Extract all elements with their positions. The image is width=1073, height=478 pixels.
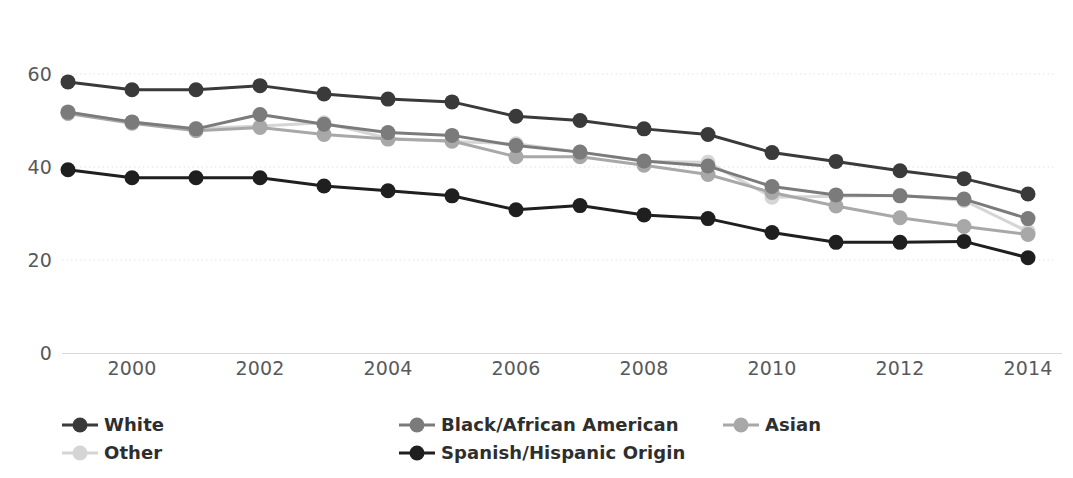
data-point: [637, 207, 652, 222]
data-point: [1021, 211, 1036, 226]
data-point: [509, 138, 524, 153]
data-point: [957, 234, 972, 249]
legend-item-black-african-american[interactable]: Black/African American: [399, 414, 679, 435]
legend-item-spanish-hispanic-origin[interactable]: Spanish/Hispanic Origin: [399, 442, 686, 463]
series-spanish-hispanic-origin: [61, 162, 1036, 265]
data-point: [765, 145, 780, 160]
data-point: [1021, 250, 1036, 265]
data-point: [61, 74, 76, 89]
data-point: [445, 94, 460, 109]
data-point: [381, 183, 396, 198]
data-point: [573, 145, 588, 160]
y-axis: 020406080: [0, 0, 52, 353]
legend-dot: [73, 445, 88, 460]
data-point: [637, 121, 652, 136]
x-tick-label: 2014: [1003, 357, 1052, 379]
data-point: [317, 117, 332, 132]
x-tick-label: 2008: [619, 357, 668, 379]
x-tick-label: 2000: [107, 357, 156, 379]
data-point: [893, 163, 908, 178]
series-white: [61, 74, 1036, 201]
legend-marker-icon: [62, 416, 98, 434]
data-point: [189, 121, 204, 136]
data-point: [189, 82, 204, 97]
data-point: [253, 120, 268, 135]
data-point: [317, 179, 332, 194]
legend-label: Spanish/Hispanic Origin: [441, 442, 686, 463]
legend-marker-icon: [62, 444, 98, 462]
data-point: [189, 170, 204, 185]
data-point: [957, 192, 972, 207]
data-point: [893, 235, 908, 250]
y-tick-label: 60: [27, 63, 52, 85]
y-tick-label: 0: [40, 342, 52, 364]
x-tick-label: 2010: [747, 357, 796, 379]
data-point: [893, 188, 908, 203]
data-point: [125, 114, 140, 129]
legend-dot: [410, 417, 425, 432]
data-point: [445, 128, 460, 143]
line-chart: 020406080 200020022004200620082010201220…: [0, 0, 1073, 478]
data-point: [1021, 227, 1036, 242]
series-line: [68, 114, 1028, 235]
x-tick-label: 2002: [235, 357, 284, 379]
data-point: [829, 154, 844, 169]
data-point: [829, 187, 844, 202]
data-point: [509, 202, 524, 217]
data-point: [701, 211, 716, 226]
data-point: [317, 87, 332, 102]
x-tick-label: 2004: [363, 357, 412, 379]
data-point: [253, 170, 268, 185]
series-other: [61, 104, 1036, 239]
legend-marker-icon: [399, 416, 435, 434]
legend-label: Other: [104, 442, 162, 463]
data-point: [701, 159, 716, 174]
data-point: [445, 188, 460, 203]
legend-label: Black/African American: [441, 414, 679, 435]
data-point: [125, 170, 140, 185]
data-point: [509, 109, 524, 124]
legend-dot: [734, 417, 749, 432]
data-point: [637, 153, 652, 168]
data-point: [573, 113, 588, 128]
y-tick-label: 20: [27, 249, 52, 271]
data-point: [893, 210, 908, 225]
data-point: [829, 235, 844, 250]
x-axis: 20002002200420062008201020122014: [62, 357, 1054, 387]
legend-item-white[interactable]: White: [62, 414, 164, 435]
legend-label: White: [104, 414, 164, 435]
data-point: [61, 162, 76, 177]
data-point: [253, 78, 268, 93]
x-tick-label: 2012: [875, 357, 924, 379]
legend-marker-icon: [399, 444, 435, 462]
data-point: [765, 179, 780, 194]
data-point: [1021, 186, 1036, 201]
chart-legend: WhiteBlack/African AmericanAsianOtherSpa…: [62, 414, 1062, 472]
data-point: [957, 171, 972, 186]
series-canvas: [62, 0, 1054, 353]
data-point: [61, 105, 76, 120]
legend-item-asian[interactable]: Asian: [723, 414, 821, 435]
data-point: [125, 82, 140, 97]
legend-dot: [410, 445, 425, 460]
data-point: [381, 125, 396, 140]
data-point: [701, 127, 716, 142]
legend-dot: [73, 417, 88, 432]
data-point: [765, 225, 780, 240]
x-axis-baseline: [62, 353, 1062, 354]
legend-label: Asian: [765, 414, 821, 435]
data-point: [957, 219, 972, 234]
data-point: [253, 107, 268, 122]
plot-area: [62, 0, 1054, 353]
legend-item-other[interactable]: Other: [62, 442, 162, 463]
data-point: [381, 92, 396, 107]
x-tick-label: 2006: [491, 357, 540, 379]
y-tick-label: 40: [27, 156, 52, 178]
legend-marker-icon: [723, 416, 759, 434]
data-point: [573, 198, 588, 213]
